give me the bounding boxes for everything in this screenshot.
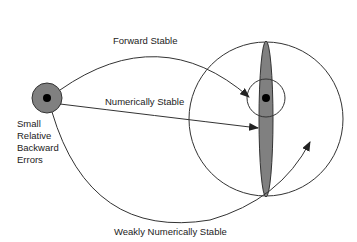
source-dot [43,94,51,102]
source-label-line-2: Relative [17,130,51,141]
numerically-stable-label: Numerically Stable [105,96,184,107]
source-label-line-1: Small [17,118,41,129]
gray-ellipse [259,41,273,197]
forward-stable-arrow [60,57,249,97]
numerically-stable-arrow [60,104,258,128]
source-label-line-4: Errors [17,154,43,165]
source-label-line-3: Backward [17,142,59,153]
stability-diagram: Forward Stable Numerically Stable Weakly… [0,0,357,242]
target-dot [262,94,270,102]
forward-stable-label: Forward Stable [113,35,177,46]
weakly-stable-label: Weakly Numerically Stable [114,226,227,237]
